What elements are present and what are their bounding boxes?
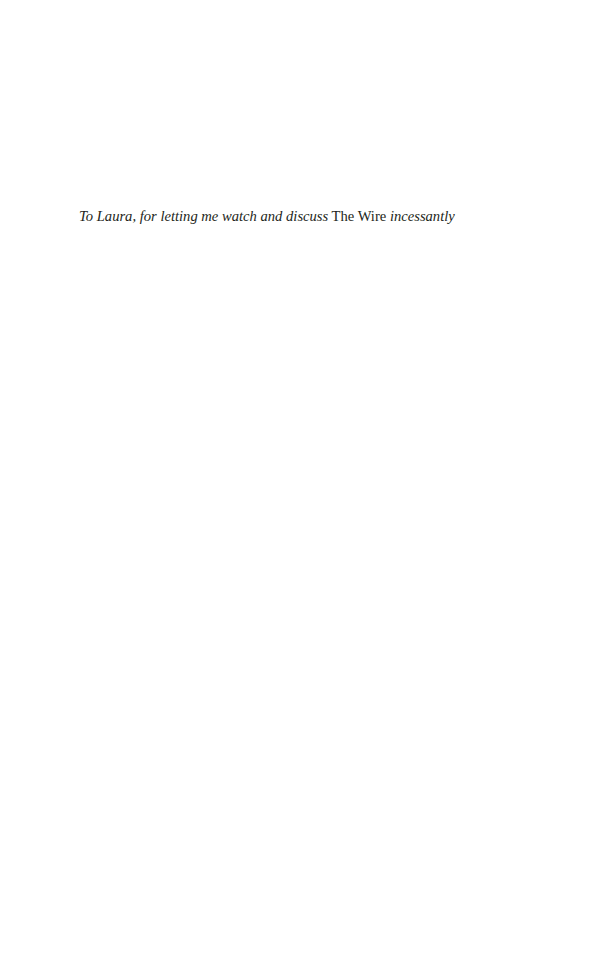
- book-page: To Laura, for letting me watch and discu…: [0, 0, 591, 958]
- dedication-show-title: The Wire: [332, 208, 387, 224]
- dedication-trailing-text: incessantly: [390, 208, 455, 224]
- dedication-lead-text: To Laura, for letting me watch and discu…: [79, 208, 328, 224]
- dedication-text: To Laura, for letting me watch and discu…: [79, 206, 455, 226]
